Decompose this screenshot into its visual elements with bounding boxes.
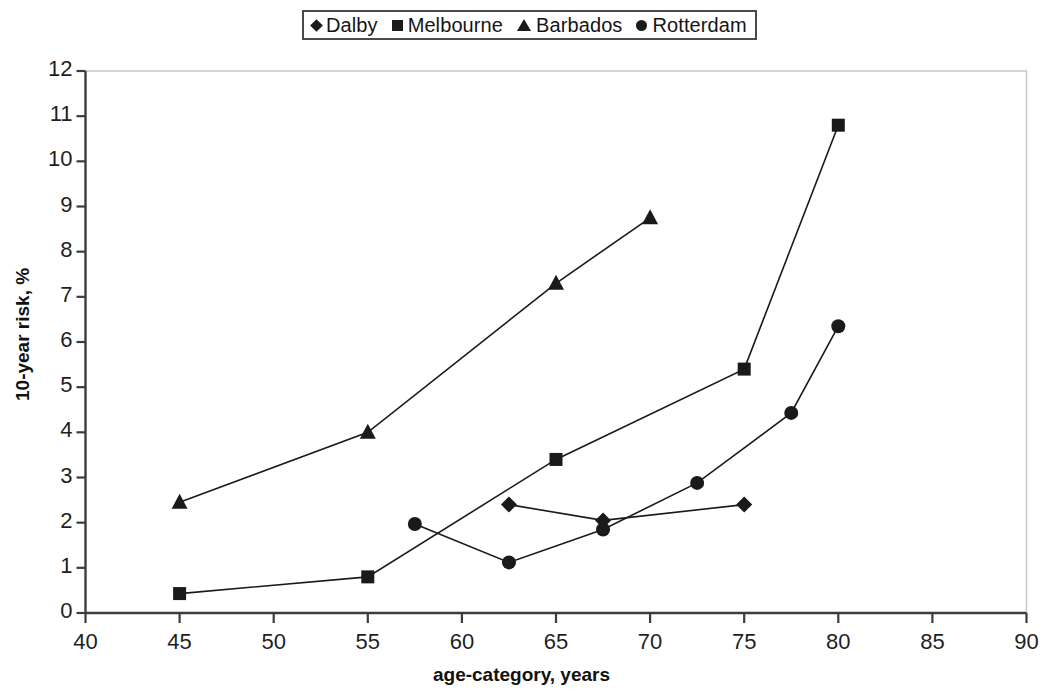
tick-marks bbox=[77, 71, 1027, 623]
series-dalby bbox=[501, 497, 752, 529]
axis-lines bbox=[86, 71, 1027, 613]
diamond-marker-icon bbox=[310, 19, 323, 32]
square-marker-icon bbox=[550, 453, 563, 466]
legend-item-rotterdam: Rotterdam bbox=[636, 15, 746, 35]
triangle-marker-icon bbox=[360, 424, 376, 439]
legend-item-barbados: Barbados bbox=[517, 15, 622, 35]
triangle-marker-icon bbox=[517, 19, 531, 31]
y-tick-label: 0 bbox=[33, 598, 73, 624]
series-layer bbox=[172, 119, 846, 600]
x-tick-label: 90 bbox=[997, 629, 1043, 655]
series-melbourne bbox=[173, 119, 845, 600]
x-tick-label: 80 bbox=[808, 629, 868, 655]
y-tick-label: 11 bbox=[33, 101, 73, 127]
legend-item-dalby: Dalby bbox=[312, 15, 378, 35]
diamond-marker-icon bbox=[595, 512, 611, 528]
square-marker-icon bbox=[173, 587, 186, 600]
square-marker-icon bbox=[738, 363, 751, 376]
x-tick-label: 70 bbox=[620, 629, 680, 655]
y-tick-label: 10 bbox=[33, 146, 73, 172]
square-marker-icon bbox=[392, 20, 403, 31]
y-tick-label: 4 bbox=[33, 417, 73, 443]
chart-legend: Dalby Melbourne Barbados Rotterdam bbox=[302, 10, 757, 40]
y-tick-label: 9 bbox=[33, 192, 73, 218]
x-tick-label: 65 bbox=[526, 629, 586, 655]
x-tick-label: 45 bbox=[150, 629, 210, 655]
series-barbados bbox=[172, 209, 658, 509]
circle-marker-icon bbox=[831, 319, 845, 333]
square-marker-icon bbox=[361, 570, 374, 583]
y-tick-label: 1 bbox=[33, 553, 73, 579]
diamond-marker-icon bbox=[501, 497, 517, 513]
chart-container: Dalby Melbourne Barbados Rotterdam 10-ye… bbox=[0, 0, 1043, 698]
plot-area bbox=[0, 0, 1043, 698]
diamond-marker-icon bbox=[736, 497, 752, 513]
triangle-marker-icon bbox=[642, 209, 658, 224]
circle-marker-icon bbox=[784, 406, 798, 420]
x-tick-label: 40 bbox=[56, 629, 116, 655]
series-rotterdam bbox=[408, 319, 845, 569]
plot-border bbox=[86, 71, 1027, 613]
x-tick-label: 75 bbox=[714, 629, 774, 655]
legend-label: Melbourne bbox=[408, 15, 503, 35]
x-tick-label: 55 bbox=[338, 629, 398, 655]
circle-marker-icon bbox=[502, 555, 516, 569]
triangle-marker-icon bbox=[172, 494, 188, 509]
x-tick-label: 85 bbox=[902, 629, 962, 655]
square-marker-icon bbox=[832, 119, 845, 132]
circle-marker-icon bbox=[596, 522, 610, 536]
y-tick-label: 5 bbox=[33, 372, 73, 398]
y-axis-title: 10-year risk, % bbox=[12, 281, 34, 401]
y-tick-label: 8 bbox=[33, 237, 73, 263]
triangle-marker-icon bbox=[548, 275, 564, 290]
y-tick-label: 2 bbox=[33, 508, 73, 534]
y-tick-label: 12 bbox=[33, 56, 73, 82]
x-tick-label: 50 bbox=[244, 629, 304, 655]
legend-item-melbourne: Melbourne bbox=[392, 15, 503, 35]
legend-label: Barbados bbox=[536, 15, 622, 35]
legend-label: Dalby bbox=[326, 15, 378, 35]
y-tick-label: 7 bbox=[33, 282, 73, 308]
legend-label: Rotterdam bbox=[652, 15, 746, 35]
x-tick-label: 60 bbox=[432, 629, 492, 655]
circle-marker-icon bbox=[636, 20, 647, 31]
y-tick-label: 6 bbox=[33, 327, 73, 353]
x-axis-title: age-category, years bbox=[0, 664, 1043, 686]
circle-marker-icon bbox=[690, 476, 704, 490]
y-tick-label: 3 bbox=[33, 463, 73, 489]
circle-marker-icon bbox=[408, 517, 422, 531]
